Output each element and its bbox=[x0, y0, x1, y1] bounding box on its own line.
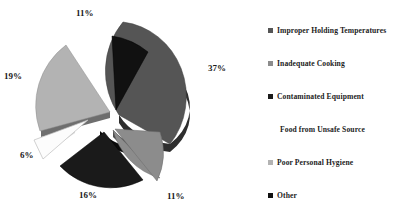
data-label-contaminated-equipment: 16% bbox=[79, 191, 97, 200]
data-label-inadequate-cooking: 11% bbox=[167, 192, 185, 201]
legend-swatch-icon-poor-personal-hygiene bbox=[268, 160, 273, 165]
legend-label-other: Other bbox=[277, 192, 297, 200]
legend-item-poor-personal-hygiene[interactable]: Poor Personal Hygiene bbox=[268, 157, 353, 168]
legend-item-food-from-unsafe-source[interactable]: Food from Unsafe Source bbox=[268, 124, 365, 135]
data-label-improper-holding-temperatures: 37% bbox=[208, 64, 226, 73]
pie-svg bbox=[0, 0, 230, 220]
data-label-food-from-unsafe-source: 6% bbox=[20, 151, 34, 160]
legend-label-poor-personal-hygiene: Poor Personal Hygiene bbox=[277, 159, 353, 167]
legend-swatch-icon-contaminated-equipment bbox=[268, 94, 273, 99]
pie-plot-area: 11% 19% 6% 16% 11% 37% bbox=[0, 0, 230, 220]
legend-item-improper-holding-temperatures[interactable]: Improper Holding Temperatures bbox=[268, 25, 386, 36]
pie-chart-figure: 11% 19% 6% 16% 11% 37% Improper Holding … bbox=[0, 0, 413, 220]
legend-item-contaminated-equipment[interactable]: Contaminated Equipment bbox=[268, 91, 364, 102]
data-label-other: 11% bbox=[76, 9, 94, 18]
legend-label-inadequate-cooking: Inadequate Cooking bbox=[277, 60, 345, 68]
legend-swatch-icon-other bbox=[268, 193, 273, 198]
legend-swatch-icon-inadequate-cooking bbox=[268, 61, 273, 66]
legend-swatch-icon-improper-holding-temperatures bbox=[268, 28, 273, 33]
legend-label-food-from-unsafe-source: Food from Unsafe Source bbox=[280, 126, 365, 134]
pie-slice-tops bbox=[34, 22, 186, 188]
legend-item-inadequate-cooking[interactable]: Inadequate Cooking bbox=[268, 58, 345, 69]
legend-swatch-icon-food-from-unsafe-source bbox=[268, 127, 273, 132]
legend-label-improper-holding-temperatures: Improper Holding Temperatures bbox=[277, 27, 386, 35]
legend-item-other[interactable]: Other bbox=[268, 190, 297, 201]
data-label-poor-personal-hygiene: 19% bbox=[4, 72, 22, 81]
chart-legend: Improper Holding Temperatures Inadequate… bbox=[268, 22, 413, 202]
legend-label-contaminated-equipment: Contaminated Equipment bbox=[277, 93, 364, 101]
